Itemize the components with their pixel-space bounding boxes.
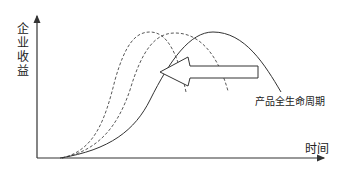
- y-axis-char: 业: [16, 36, 30, 50]
- dashed-curve-1: [62, 32, 186, 158]
- y-axis-char: 益: [16, 64, 30, 78]
- y-axis-char: 企: [16, 22, 30, 36]
- y-axis-char: 收: [16, 50, 30, 64]
- lifecycle-diagram: [0, 0, 348, 174]
- y-axis-label: 企 业 收 益: [16, 22, 30, 78]
- dashed-curve-2: [62, 33, 228, 158]
- x-axis-label: 时间: [305, 139, 329, 156]
- solid-lifecycle-curve: [60, 32, 281, 158]
- left-arrow-icon: [160, 57, 258, 86]
- curve-label: 产品全生命周期: [255, 93, 325, 108]
